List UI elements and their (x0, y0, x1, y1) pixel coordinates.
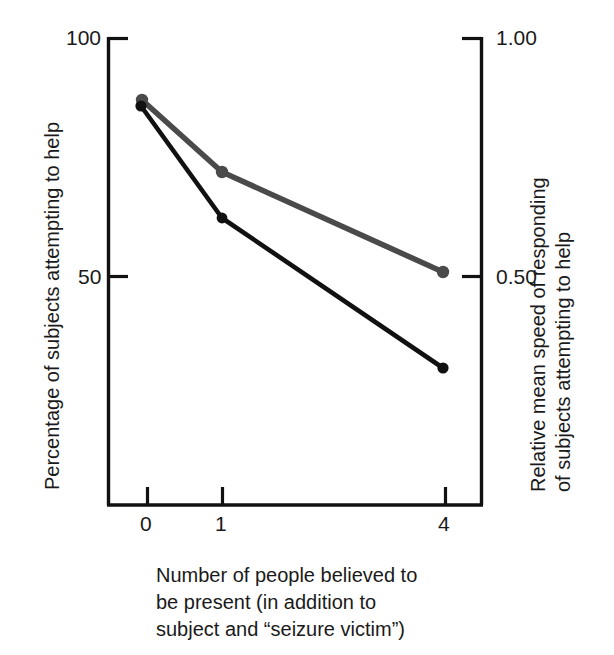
y-axis-right-title-line-1: Relative mean speed of responding (527, 177, 549, 492)
x-axis-title-line-1: Number of people believed to (156, 562, 417, 589)
y-axis-left-tick-label-50: 50 (78, 266, 101, 287)
series-point-speed-4 (437, 266, 449, 278)
y-axis-right-tick-label-1-00: 1.00 (496, 27, 537, 48)
series-point-percentage-0 (135, 100, 146, 111)
series-point-percentage-1 (217, 213, 228, 224)
series-point-speed-1 (216, 166, 228, 178)
x-axis-title-line-2: be present (in addition to (156, 589, 417, 616)
y-axis-right-title-line-2: of subjects attempting to help (551, 177, 576, 492)
x-axis-tick-label-1: 1 (215, 513, 227, 534)
figure: 100 50 1.00 0.50 0 1 4 Percentage of sub… (0, 0, 614, 655)
x-axis-title-line-3: subject and “seizure victim”) (156, 616, 417, 643)
y-axis-left-tick-label-100: 100 (66, 27, 101, 48)
series-line-speed (142, 100, 443, 272)
series-point-percentage-4 (437, 362, 448, 373)
chart-plot-area (0, 0, 614, 655)
series-line-percentage (141, 106, 443, 368)
y-axis-left-title: Percentage of subjects attempting to hel… (40, 122, 64, 490)
y-axis-right-title: Relative mean speed of responding of sub… (526, 177, 576, 492)
x-axis-tick-label-4: 4 (438, 513, 450, 534)
x-axis-tick-label-0: 0 (140, 513, 152, 534)
x-axis-title: Number of people believed to be present … (156, 562, 417, 643)
